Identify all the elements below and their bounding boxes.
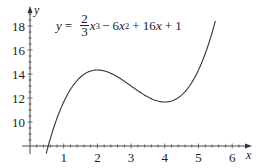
equation-fraction: 2 3: [80, 13, 89, 38]
y-axis-label: y: [33, 3, 40, 17]
y-tick-label: 12: [12, 91, 25, 106]
term2-coef: − 6: [102, 18, 119, 34]
y-tick-label: 18: [12, 19, 25, 34]
term4: + 1: [165, 18, 182, 34]
y-tick-label: 10: [12, 115, 25, 130]
x-tick-label: 3: [128, 150, 135, 165]
term3-coef: + 16: [132, 18, 156, 34]
term1-exp: 3: [95, 21, 100, 31]
y-tick-label: 16: [12, 43, 26, 58]
tick-labels: 1234561012141618: [12, 19, 236, 166]
y-tick-label: 14: [12, 67, 26, 82]
x-tick-label: 6: [229, 150, 236, 165]
equation-lhs: y: [56, 18, 62, 34]
term3-var: x: [156, 18, 162, 34]
x-tick-label: 5: [195, 150, 202, 165]
x-tick-label: 2: [94, 150, 101, 165]
fraction-denominator: 3: [81, 26, 88, 38]
x-tick-label: 1: [60, 150, 67, 165]
cubic-curve: [46, 21, 215, 154]
equation-equals: =: [65, 18, 72, 34]
y-axis-arrow-icon: [28, 6, 33, 13]
x-axis-label: x: [245, 148, 252, 162]
term2-exp: 2: [125, 21, 130, 31]
equation-label: y = 2 3 x3 − 6x2 + 16x + 1: [56, 13, 182, 38]
x-tick-label: 4: [162, 150, 169, 165]
